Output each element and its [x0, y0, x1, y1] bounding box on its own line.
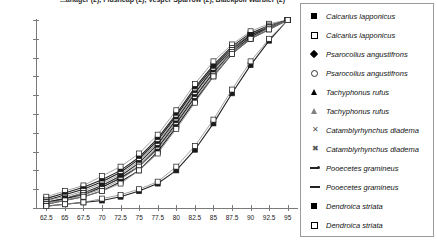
series-marker	[230, 51, 235, 56]
legend-item[interactable]: Calcarius lapponicus	[309, 10, 395, 22]
series-marker	[285, 18, 290, 23]
series-marker	[211, 74, 216, 79]
series-marker	[118, 181, 123, 186]
series-marker	[155, 151, 160, 156]
series-marker	[211, 117, 216, 122]
legend-item-label: Tachyphonus rufus	[326, 88, 389, 97]
series-marker	[118, 164, 123, 169]
series-marker	[81, 200, 86, 205]
legend-item-label: Catamblyrhynchus diadema	[326, 145, 419, 154]
series-marker	[100, 196, 105, 201]
legend-item-label: Calcarius lapponicus	[326, 12, 395, 21]
x-star-icon: ✖	[309, 143, 322, 155]
series-marker	[267, 27, 272, 32]
legend-item[interactable]: ✕Catamblyrhynchus diadema	[309, 124, 419, 136]
series-marker	[155, 132, 160, 137]
open-triangle-icon	[309, 105, 322, 117]
legend-item[interactable]: Tachyphonus rufus	[309, 86, 389, 98]
dash-icon	[309, 181, 322, 193]
series-line	[46, 20, 287, 202]
series-line	[46, 20, 287, 206]
series-marker	[137, 168, 142, 173]
data-series-lines	[0, 0, 300, 240]
dash-dot-icon	[309, 162, 322, 174]
series-marker	[62, 202, 67, 207]
legend-item-label: Pooecetes gramineus	[326, 164, 399, 173]
series-marker	[100, 174, 105, 179]
legend-item[interactable]: Dendroica striata	[309, 219, 383, 231]
open-circle-icon	[309, 67, 322, 79]
series-marker	[137, 187, 142, 192]
series-line	[46, 20, 287, 206]
legend-item-list: Calcarius lapponicusCalcarius lapponicus…	[301, 4, 433, 236]
chart-legend: Calcarius lapponicusCalcarius lapponicus…	[300, 3, 434, 237]
series-line	[46, 20, 287, 202]
open-square-icon	[309, 29, 322, 41]
legend-item[interactable]: Tachyphonus rufus	[309, 105, 389, 117]
series-line	[46, 20, 287, 202]
series-line	[46, 20, 287, 202]
legend-item-label: Dendroica striata	[326, 202, 383, 211]
legend-item-label: Psarocolius angustifrons	[326, 69, 408, 78]
series-marker	[174, 108, 179, 113]
filled-square-icon	[309, 10, 322, 22]
legend-item-label: Pooecetes gramineus	[326, 183, 399, 192]
series-line	[46, 20, 287, 200]
legend-item[interactable]: Psarocolius angustifrons	[309, 67, 408, 79]
series-marker	[81, 194, 86, 199]
open-square-icon	[309, 219, 322, 231]
legend-item-label: Tachyphonus rufus	[326, 107, 389, 116]
series-marker	[248, 59, 253, 64]
legend-item[interactable]: Pooecetes gramineus	[309, 181, 399, 193]
legend-item[interactable]: Pooecetes gramineus	[309, 162, 399, 174]
series-marker	[137, 151, 142, 156]
legend-item-label: Psarocolius angustifrons	[326, 50, 408, 59]
filled-triangle-icon	[309, 86, 322, 98]
legend-item-label: Dendroica striata	[326, 221, 383, 230]
series-marker	[44, 204, 49, 209]
series-marker	[211, 59, 216, 64]
series-marker	[118, 192, 123, 197]
legend-item-label: Catamblyrhynchus diadema	[326, 126, 419, 135]
chart-plot-area: 0%10%20%30%40%50%60%70%80%90%100% 62.565…	[0, 0, 300, 240]
series-marker	[192, 143, 197, 148]
series-marker	[174, 127, 179, 132]
series-line	[46, 20, 287, 200]
series-marker	[192, 100, 197, 105]
x-mark-icon: ✕	[309, 124, 322, 136]
filled-diamond-icon	[309, 48, 322, 60]
series-marker	[248, 36, 253, 41]
series-marker	[100, 189, 105, 194]
series-line	[46, 20, 287, 199]
series-marker	[174, 164, 179, 169]
series-line	[46, 20, 287, 197]
series-marker	[155, 179, 160, 184]
filled-square-icon	[309, 200, 322, 212]
legend-item[interactable]: Dendroica striata	[309, 200, 383, 212]
series-marker	[230, 87, 235, 92]
legend-item[interactable]: Psarocolius angustifrons	[309, 48, 408, 60]
legend-item[interactable]: ✖Catamblyrhynchus diadema	[309, 143, 419, 155]
legend-item[interactable]: Calcarius lapponicus	[309, 29, 395, 41]
series-marker	[267, 36, 272, 41]
legend-item-label: Calcarius lapponicus	[326, 31, 395, 40]
series-marker	[192, 81, 197, 86]
